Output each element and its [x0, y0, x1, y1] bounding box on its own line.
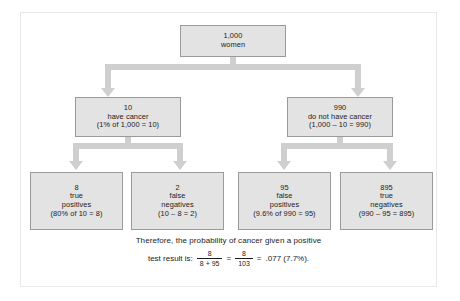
equation-result: .077 (7.7%). — [266, 254, 310, 263]
arrowhead-to-cancer-icon — [101, 88, 115, 97]
node-do-not-have-cancer-calc: (1,000 – 10 = 990) — [309, 121, 371, 130]
connector-cancer-to-false-negatives — [177, 143, 183, 161]
fraction-posterior-expanded: 8 8 + 95 — [197, 250, 223, 268]
node-true-positives-calc: (80% of 10 = 8) — [51, 210, 103, 219]
arrowhead-to-true-positives-icon — [69, 161, 83, 170]
fraction1-denominator: 8 + 95 — [197, 258, 223, 267]
node-do-not-have-cancer: 990 do not have cancer (1,000 – 10 = 990… — [287, 97, 393, 137]
node-root-label: women — [221, 41, 245, 50]
arrowhead-to-false-negatives-icon — [173, 161, 187, 170]
node-false-positives: 95 false positives (9.6% of 990 = 95) — [238, 172, 331, 230]
node-true-negatives-calc: (990 – 95 = 895) — [359, 210, 415, 219]
probability-tree-diagram: 1,000 women 10 have cancer (1% of 1,000 … — [0, 0, 460, 301]
node-true-positives: 8 true positives (80% of 10 = 8) — [30, 172, 123, 230]
node-have-cancer-calc: (1% of 1,000 = 10) — [97, 121, 159, 130]
node-have-cancer: 10 have cancer (1% of 1,000 = 10) — [75, 97, 181, 137]
connector-root-crossbar — [105, 64, 361, 70]
fraction2-numerator: 8 — [239, 250, 249, 257]
fraction-posterior-simplified: 8 103 — [235, 250, 253, 268]
node-false-positives-calc: (9.6% of 990 = 95) — [253, 210, 315, 219]
fraction2-denominator: 103 — [235, 258, 253, 267]
equals-sign-1: = — [226, 254, 231, 263]
conclusion-text-line1: Therefore, the probability of cancer giv… — [20, 236, 437, 245]
connector-no-cancer-to-false-positives — [281, 143, 287, 161]
node-true-negatives: 895 true negatives (990 – 95 = 895) — [340, 172, 433, 230]
node-root-population: 1,000 women — [180, 25, 286, 57]
connector-no-cancer-to-true-negatives — [387, 143, 393, 161]
arrowhead-to-true-negatives-icon — [383, 161, 397, 170]
connector-no-cancer-crossbar — [281, 143, 393, 149]
connector-root-to-cancer — [105, 64, 111, 88]
node-false-negatives: 2 false negatives (10 – 8 = 2) — [131, 172, 224, 230]
equation-prefix: test result is: — [148, 254, 193, 263]
conclusion-block: Therefore, the probability of cancer giv… — [20, 236, 437, 268]
arrowhead-to-no-cancer-icon — [351, 88, 365, 97]
equals-sign-2: = — [257, 254, 262, 263]
fraction1-numerator: 8 — [205, 250, 215, 257]
connector-root-to-no-cancer — [355, 64, 361, 88]
connector-cancer-crossbar — [73, 143, 183, 149]
connector-cancer-to-true-positives — [73, 143, 79, 161]
arrowhead-to-false-positives-icon — [277, 161, 291, 170]
node-false-negatives-calc: (10 – 8 = 2) — [158, 210, 197, 219]
probability-equation: test result is: 8 8 + 95 = 8 103 = .077 … — [20, 250, 437, 268]
